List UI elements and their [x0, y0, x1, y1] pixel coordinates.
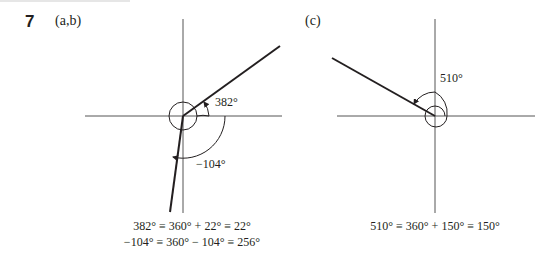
equation-382: 382° ≡ 360° + 22° ≡ 22°: [117, 219, 267, 234]
equation-510: 510° ≡ 360° + 150° ≡ 150°: [365, 219, 505, 234]
angle-label-510: 510°: [440, 71, 463, 86]
terminal-side-510: [332, 58, 435, 116]
equation-neg104: −104° ≡ 360° − 104° ≡ 256°: [108, 235, 276, 250]
diagram-ab: [85, 19, 282, 213]
angle-label-neg104: −104°: [196, 157, 226, 172]
terminal-side-neg104: [170, 116, 183, 212]
diagram-c: [332, 19, 535, 213]
arc-510: [414, 92, 447, 127]
angle-diagrams: [0, 0, 551, 253]
angle-label-382: 382°: [215, 95, 238, 110]
